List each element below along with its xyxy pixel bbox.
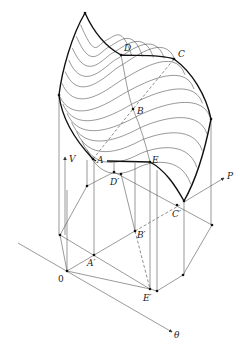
- theta-axis-label: θ: [174, 330, 180, 340]
- label-d-prime: D′: [109, 177, 119, 187]
- label-c: C: [178, 49, 185, 59]
- fold-line: [121, 55, 150, 162]
- label-b-prime: B′: [136, 230, 146, 240]
- origin-label: 0: [58, 274, 64, 284]
- surface-curve: [63, 89, 203, 121]
- cusp-catastrophe-diagram: θ V P 0: [0, 0, 248, 355]
- label-d: D: [123, 43, 131, 53]
- v-axis-label: V: [69, 154, 77, 164]
- p-axis-label: P: [226, 171, 234, 181]
- surface-curve: [72, 118, 208, 141]
- label-c-prime: C′: [172, 209, 181, 219]
- label-a-prime: A′: [86, 258, 96, 268]
- label-a: A: [96, 155, 104, 165]
- surface-curves: [59, 25, 210, 185]
- surface-curve: [77, 132, 203, 152]
- label-e: E: [151, 155, 159, 165]
- label-b: B: [136, 106, 144, 116]
- theta-axis: [18, 243, 172, 332]
- points: [58, 12, 214, 293]
- surface-curve: [59, 75, 194, 111]
- label-e-prime: E′: [142, 293, 152, 303]
